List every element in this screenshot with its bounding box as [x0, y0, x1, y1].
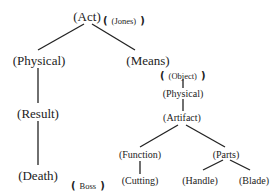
edge-artifact-function [140, 125, 178, 147]
node-blade: (Blade) [239, 176, 269, 186]
edge-parts-handle [203, 160, 223, 170]
node-cutting: (Cutting) [122, 176, 159, 186]
node-act: (Act) [73, 10, 100, 23]
node-death: (Death) [18, 169, 58, 182]
node-artifact: (Artifact) [163, 113, 201, 123]
node-physical-left: (Physical) [13, 54, 66, 67]
annotation-jones-text: (Jones) [112, 16, 137, 26]
annotation-boss-text: Boss [80, 181, 97, 191]
annotation-jones: ( (Jones) ) [103, 11, 145, 27]
edge-artifact-parts [186, 125, 225, 147]
annotation-boss: ( Boss ) [71, 176, 105, 192]
tree-edges [0, 0, 276, 195]
node-result: (Result) [17, 107, 59, 120]
node-physical-right: (Physical) [163, 89, 204, 99]
node-object: (Object) [169, 71, 197, 81]
edge-parts-blade [230, 160, 250, 170]
node-handle: (Handle) [182, 176, 218, 186]
annotation-object: ( (Object) ) [160, 66, 205, 82]
node-parts: (Parts) [213, 150, 240, 160]
edge-act-means [92, 24, 135, 50]
node-function: (Function) [119, 150, 161, 160]
edge-act-physical [38, 24, 84, 50]
